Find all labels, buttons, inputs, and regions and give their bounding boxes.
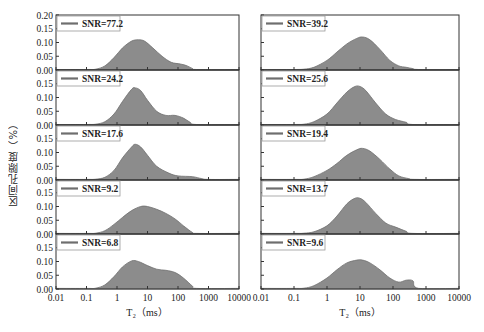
area-series [56, 88, 239, 125]
y-tick-label: 0.05 [36, 271, 53, 281]
x-tick-label: 0.1 [288, 293, 300, 303]
panel-snr-17-6: 0.150.100.050.00SNR=17.6 [36, 125, 239, 186]
legend-label: SNR=39.2 [287, 19, 328, 29]
panel-snr-9-6: SNR=9.6 [261, 234, 459, 289]
x-axis-title-right: T₂（ms） [339, 307, 380, 318]
area-series [261, 37, 459, 70]
y-tick-label: 0.05 [36, 162, 53, 172]
x-tick-label: 10000 [447, 293, 471, 303]
y-tick-label: 0.05 [36, 216, 53, 226]
y-tick-label: 0.10 [36, 202, 53, 212]
area-series [261, 86, 459, 125]
y-tick-label: 0.15 [36, 79, 53, 89]
legend-label: SNR=17.6 [82, 129, 123, 139]
y-tick-label: 0.00 [36, 121, 53, 131]
y-tick-label: 0.10 [36, 93, 53, 103]
area-series [56, 144, 239, 180]
legend-label: SNR=25.6 [287, 74, 328, 84]
panels-group: 0.200.150.100.050.00SNR=77.20.150.100.05… [36, 11, 471, 304]
x-tick-label: 100 [386, 293, 401, 303]
x-tick-label: 10 [143, 293, 153, 303]
y-tick-label: 0.00 [36, 230, 53, 240]
area-series [56, 260, 239, 289]
y-tick-label: 0.20 [36, 11, 53, 21]
y-tick-label: 0.00 [36, 176, 53, 186]
x-tick-label: 1 [115, 293, 120, 303]
y-tick-label: 0.10 [36, 148, 53, 158]
y-tick-label: 0.15 [36, 188, 53, 198]
x-tick-label: 10000 [227, 293, 251, 303]
x-tick-label: 1 [325, 293, 330, 303]
area-series [261, 260, 459, 289]
x-axis-title-left: T₂（ms） [126, 307, 167, 318]
area-series [261, 148, 459, 180]
legend-label: SNR=9.2 [82, 184, 119, 194]
area-series [56, 40, 239, 70]
panel-snr-9-2: 0.150.100.050.00SNR=9.2 [36, 180, 239, 240]
legend-label: SNR=9.6 [287, 238, 324, 248]
x-tick-label: 0.1 [81, 293, 93, 303]
y-tick-label: 0.10 [36, 38, 53, 48]
x-tick-label: 1000 [417, 293, 436, 303]
y-tick-label: 0.05 [36, 107, 53, 117]
y-tick-label: 0.15 [36, 134, 53, 144]
panel-snr-77-2: 0.200.150.100.050.00SNR=77.2 [36, 11, 239, 76]
panel-snr-39-2: SNR=39.2 [261, 15, 459, 70]
panel-snr-19-4: SNR=19.4 [261, 125, 459, 180]
nmr-t2-figure: 0.200.150.100.050.00SNR=77.20.150.100.05… [0, 0, 484, 332]
y-tick-label: 0.05 [36, 52, 53, 62]
y-tick-label: 0.15 [36, 243, 53, 253]
x-tick-label: 0.01 [48, 293, 65, 303]
area-series [56, 206, 239, 234]
legend-label: SNR=13.7 [287, 184, 328, 194]
y-tick-label: 0.15 [36, 24, 53, 34]
y-tick-label: 0.00 [36, 66, 53, 76]
panel-snr-25-6: SNR=25.6 [261, 70, 459, 125]
y-tick-label: 0.10 [36, 257, 53, 267]
legend-label: SNR=19.4 [287, 129, 328, 139]
legend-label: SNR=77.2 [82, 19, 123, 29]
panel-snr-24-2: 0.150.100.050.00SNR=24.2 [36, 70, 239, 131]
x-tick-label: 0.01 [253, 293, 270, 303]
x-tick-label: 100 [171, 293, 186, 303]
legend-label: SNR=24.2 [82, 74, 123, 84]
x-tick-label: 10 [355, 293, 365, 303]
panel-snr-13-7: SNR=13.7 [261, 180, 459, 234]
panel-snr-6-8: 0.150.100.050.00SNR=6.8 [36, 234, 239, 295]
x-tick-label: 1000 [199, 293, 218, 303]
legend-label: SNR=6.8 [82, 238, 119, 248]
area-series [261, 198, 459, 234]
